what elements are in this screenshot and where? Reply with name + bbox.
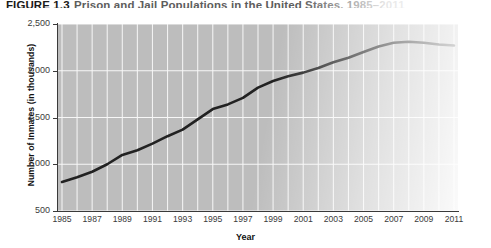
chart-svg xyxy=(58,24,458,211)
figure-title-text: Prison and Jail Populations in the Unite… xyxy=(74,0,405,8)
y-tick-mark xyxy=(53,164,58,165)
x-axis-line xyxy=(57,211,459,212)
x-tick-label: 1985 xyxy=(47,214,77,224)
x-tick-label: 2011 xyxy=(439,214,469,224)
y-tick-mark xyxy=(53,118,58,119)
x-tick-label: 2003 xyxy=(318,214,348,224)
figure-title: FIGURE 1.3 Prison and Jail Populations i… xyxy=(6,0,476,8)
x-tick-label: 1987 xyxy=(77,214,107,224)
x-tick-label: 2005 xyxy=(349,214,379,224)
x-axis-title: Year xyxy=(0,232,491,242)
x-tick-label: 1989 xyxy=(107,214,137,224)
figure-page: FIGURE 1.3 Prison and Jail Populations i… xyxy=(0,0,491,248)
y-tick-mark xyxy=(53,24,58,25)
y-tick-mark xyxy=(53,211,58,212)
y-tick-label: 1,500 xyxy=(14,112,50,122)
y-tick-label: 500 xyxy=(14,205,50,215)
plot-area xyxy=(58,24,458,211)
x-tick-label: 1991 xyxy=(137,214,167,224)
y-tick-mark xyxy=(53,71,58,72)
y-tick-label: 2,500 xyxy=(14,18,50,28)
x-tick-label: 1993 xyxy=(168,214,198,224)
y-tick-label: 2,000 xyxy=(14,65,50,75)
x-tick-label: 1995 xyxy=(198,214,228,224)
figure-number: FIGURE 1.3 xyxy=(6,0,70,8)
x-tick-label: 2001 xyxy=(288,214,318,224)
y-tick-label: 1,000 xyxy=(14,158,50,168)
x-tick-label: 1999 xyxy=(258,214,288,224)
x-tick-label: 2009 xyxy=(409,214,439,224)
x-tick-label: 1997 xyxy=(228,214,258,224)
x-tick-label: 2007 xyxy=(379,214,409,224)
